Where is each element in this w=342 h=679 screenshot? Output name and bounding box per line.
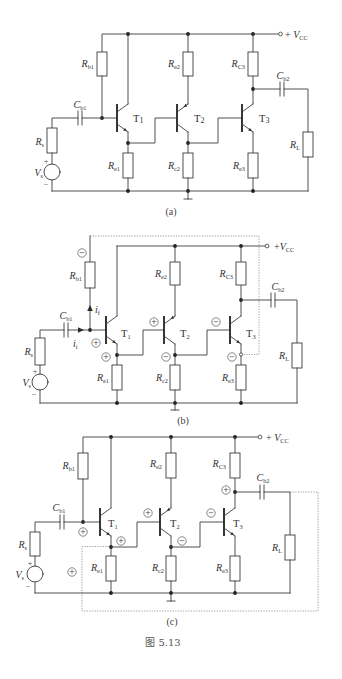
rs-label: Rs: [17, 539, 27, 551]
re1-sub: e1: [103, 377, 109, 384]
vcc-sub: CC: [280, 437, 288, 444]
input-network: [44, 111, 117, 191]
panel-a-label: (a): [165, 206, 176, 218]
svg-text:−: −: [79, 249, 85, 257]
t2-sub: 2: [186, 333, 189, 340]
rs-sub: s: [42, 141, 45, 148]
if-sub: f: [98, 309, 101, 316]
resistor-rc3: [236, 262, 246, 285]
ground-rail: [35, 591, 290, 595]
polarity-t2-collector: −: [178, 537, 186, 546]
vcc-label: + VCC: [266, 432, 289, 444]
re3-label: Re3: [215, 562, 228, 574]
t2-label: T2: [194, 113, 204, 125]
svg-text:−: −: [163, 353, 169, 361]
re1-label: Re1: [107, 160, 120, 172]
rl-main: R: [278, 350, 285, 361]
t2-sub: 2: [176, 523, 179, 530]
resistor-rb1: [85, 236, 95, 332]
t1-sub: 1: [127, 333, 130, 340]
input-network: [32, 323, 106, 403]
output-network: [235, 485, 295, 593]
rc2-main: R: [155, 372, 162, 383]
svg-text:+: +: [69, 568, 75, 576]
rc2-label: Rc2: [167, 160, 180, 172]
vcc-label: +VCC: [274, 241, 294, 253]
resistor-re2: [166, 453, 176, 478]
cb1-label: Cb1: [53, 502, 66, 514]
re3-label: Re3: [221, 372, 234, 384]
rb1-sub: b1: [69, 465, 75, 472]
figure-caption: 图 5.13: [145, 637, 180, 648]
rl-sub: L: [285, 355, 289, 362]
rs-main: R: [23, 346, 30, 357]
rc3-label: RC3: [219, 268, 233, 280]
rs-sub: s: [25, 544, 28, 551]
vs-plus-sign: +: [44, 157, 49, 166]
t3-label: T3: [233, 518, 243, 530]
svg-text:−: −: [208, 509, 214, 517]
resistor-re1: [123, 153, 133, 191]
svg-text:+: +: [223, 486, 229, 494]
rc2-sub: c2: [162, 377, 168, 384]
resistor-re2: [170, 262, 180, 285]
re1-main: R: [90, 562, 97, 573]
t1-sub: 1: [139, 116, 143, 125]
feedback-current-arrow-icon: [87, 305, 93, 311]
re2-sub: e2: [156, 463, 162, 470]
vcc-sub: CC: [299, 34, 307, 41]
re2-main: R: [149, 458, 156, 469]
rs-label: Rs: [34, 136, 44, 148]
resistor-re3: [248, 153, 258, 191]
transistor-t1: [117, 34, 130, 153]
svg-text:+: +: [103, 353, 109, 361]
re3-sub: e3: [222, 567, 228, 574]
output-network: [253, 82, 313, 191]
svg-text:+: +: [93, 339, 99, 347]
vcc-sub: CC: [286, 246, 294, 253]
re2-main: R: [167, 58, 174, 69]
resistor-rc3: [248, 52, 258, 76]
rb1-label: Rb1: [69, 270, 82, 282]
polarity-t1-emitter: +: [102, 353, 110, 362]
panel-b: +VCC Rb1 − if ii + Cb1 Rs Vs + −: [22, 236, 302, 427]
cb2-label: Cb2: [257, 472, 270, 484]
t1-label: T1: [121, 328, 131, 340]
resistor-re1: [106, 556, 116, 593]
polarity-t2-collector: −: [162, 353, 170, 362]
rl-sub: L: [278, 547, 282, 554]
rb1-label: Rb1: [81, 58, 94, 70]
rc3-sub: C3: [219, 463, 226, 470]
resistor-re2: [183, 52, 193, 76]
re3-sub: e3: [239, 165, 245, 172]
cb1-sub: b1: [59, 507, 65, 514]
polarity-t1-base: +: [92, 339, 100, 348]
rb1-sub: b1: [88, 63, 94, 70]
re2-sub: e2: [174, 63, 180, 70]
svg-text:−: −: [213, 318, 219, 326]
resistor-re1: [112, 365, 122, 403]
vcc-rail: [102, 32, 282, 52]
vs-sub: s: [41, 172, 44, 179]
rb1-main: R: [62, 460, 69, 471]
rc2-sub: c2: [174, 165, 180, 172]
re2-sub: e2: [161, 273, 167, 280]
cb2-sub: b2: [278, 286, 284, 293]
rc2-main: R: [151, 562, 158, 573]
svg-text:+: +: [151, 318, 157, 326]
ground-rail: [40, 401, 297, 405]
t3-label: T3: [259, 113, 269, 125]
rl-main: R: [289, 139, 296, 150]
re3-main: R: [215, 562, 222, 573]
re3-label: Re3: [232, 160, 245, 172]
output-network: [241, 293, 302, 403]
rs-label: Rs: [23, 346, 33, 358]
svg-text:+: +: [80, 528, 86, 536]
vs-sub: s: [29, 382, 32, 389]
feedback-path: [90, 236, 259, 355]
re3-sub: e3: [228, 377, 234, 384]
input-network: [27, 515, 100, 593]
t1-label: T1: [108, 518, 118, 530]
resistor-rc3: [230, 453, 240, 478]
re3-main: R: [221, 372, 228, 383]
